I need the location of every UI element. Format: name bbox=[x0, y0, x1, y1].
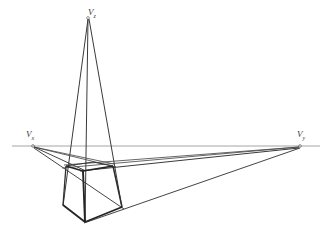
vy-label-subscript: y bbox=[303, 135, 306, 141]
vz-ray-group bbox=[63, 19, 122, 223]
perspective-drawing-canvas bbox=[0, 0, 327, 246]
vanishing-point-z-label: Vz bbox=[88, 8, 96, 19]
box-vertical-edges bbox=[63, 166, 122, 222]
box-edge-vertical-right bbox=[113, 166, 122, 207]
vy-ray-group bbox=[62, 147, 300, 223]
vx-ray-group bbox=[34, 147, 124, 209]
box-edge-vertical-near bbox=[83, 171, 85, 222]
vanishing-point-markers bbox=[32, 17, 302, 148]
perspective-figure: Vz Vx Vy bbox=[0, 0, 327, 246]
box-edge-bottom-left bbox=[63, 205, 85, 222]
vz-ray-right-bottom bbox=[89, 19, 122, 208]
vx-ray-right-top bbox=[34, 147, 114, 164]
vx-ray-near-top bbox=[34, 147, 86, 171]
vx-ray-right-bottom bbox=[34, 148, 124, 209]
vanishing-point-y-label: Vy bbox=[297, 130, 305, 141]
box-edge-bottom-right bbox=[85, 207, 122, 222]
vz-ray-left-bottom bbox=[63, 19, 88, 206]
vx-label-subscript: x bbox=[32, 135, 35, 141]
vy-ray-left-top bbox=[62, 147, 299, 168]
vz-label-subscript: z bbox=[94, 13, 96, 19]
box-bottom-face bbox=[63, 205, 122, 222]
vz-ray-near-bottom bbox=[85, 19, 88, 223]
vanishing-point-x-label: Vx bbox=[26, 130, 34, 141]
